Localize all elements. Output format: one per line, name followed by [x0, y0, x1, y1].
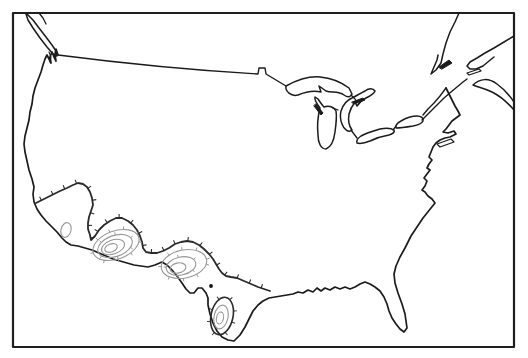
- maine-border: [423, 88, 446, 115]
- stx-contour-ring-1-tick: [216, 297, 219, 300]
- lake-erie: [357, 128, 395, 143]
- wtx-contour-ring-2: [164, 254, 197, 278]
- map-frame: [13, 13, 514, 347]
- az-contour-ring-4: [104, 242, 119, 254]
- density-contour-outer: [36, 183, 270, 291]
- density-contour-outer-tick: [92, 200, 96, 201]
- density-contour-outer-tick: [200, 242, 202, 245]
- lake-ontario: [396, 116, 423, 128]
- lake-huron: [340, 89, 375, 131]
- wtx-contour-ring-3: [169, 261, 187, 274]
- wtx-contour-ring-2-tick: [177, 275, 178, 278]
- az-contour-ring-1-tick: [131, 253, 133, 256]
- wtx-contour-ring-1-tick: [167, 253, 169, 256]
- wtx-contour-ring-2-tick: [193, 258, 195, 260]
- nova-scotia: [473, 80, 514, 110]
- wtx-contour-ring-1-tick: [206, 264, 209, 266]
- az-contour-ring-1-tick: [118, 259, 119, 262]
- vancouver-island: [26, 14, 57, 56]
- lake-superior: [286, 77, 352, 97]
- prince-edward-island: [467, 69, 481, 75]
- locality-point-marker: [209, 284, 213, 288]
- wtx-contour-ring-2-tick: [193, 270, 195, 272]
- canada-border-line: [58, 55, 286, 86]
- density-contour-outer-tick: [143, 245, 147, 246]
- wtx-contour-ring-1-tick: [168, 277, 170, 280]
- stx-contour-ring-3: [215, 311, 224, 324]
- stx-contour-ring-1-tick: [230, 297, 233, 300]
- wtx-contour-ring-1-tick: [183, 278, 184, 281]
- mackinac-channel: [333, 108, 338, 110]
- figure-page: [0, 0, 528, 358]
- density-contour-outer-tick: [105, 219, 107, 222]
- density-contour-outer-tick: [88, 186, 91, 188]
- stx-contour-ring-1-tick: [225, 332, 228, 335]
- density-contour-outer-tick: [131, 220, 133, 223]
- az-contour-ring-1-tick: [109, 230, 110, 233]
- az-contour-ring-2-tick: [117, 256, 118, 258]
- wtx-contour-ring-1-tick: [196, 248, 198, 251]
- density-contour-outer-tick: [249, 280, 251, 284]
- map-svg: [0, 0, 528, 358]
- lake-michigan: [315, 97, 337, 149]
- density-contour-outer-tick: [173, 240, 175, 244]
- density-contour-outer-tick: [188, 237, 189, 241]
- gaspe-peninsula: [467, 36, 514, 69]
- stx-contour-ring-1-tick: [212, 332, 214, 335]
- stx-contour-ring-1: [207, 295, 236, 337]
- density-contour-outer-tick: [95, 229, 98, 231]
- wtx-contour-ring-2-tick: [177, 255, 178, 258]
- az-contour-ring-1-tick: [90, 252, 93, 253]
- wtx-contour-ring-1-tick: [206, 258, 209, 259]
- az-contour-ring-2-tick: [130, 247, 132, 249]
- wtx-contour-ring-1-tick: [181, 247, 182, 250]
- us-coast-outline: [24, 49, 460, 341]
- bc-coast-line: [39, 13, 46, 24]
- us-distribution-map: [0, 0, 528, 358]
- density-contour-outer-tick: [237, 274, 238, 278]
- stclair-channel: [351, 130, 357, 138]
- density-contour-outer-tick: [75, 180, 76, 184]
- density-contour-outer-tick: [91, 237, 95, 238]
- density-contour-outer-tick: [225, 272, 227, 275]
- az-contour-ring-2-tick: [100, 256, 102, 258]
- az-contour-ring-2-tick: [99, 240, 101, 243]
- density-contour-outer-tick: [209, 252, 212, 255]
- az-contour-ring-2-tick: [130, 236, 133, 238]
- az-contour-ring-1-tick: [96, 237, 98, 240]
- density-contour-outer-tick: [217, 263, 220, 265]
- density-contour-outer-tick: [63, 185, 65, 189]
